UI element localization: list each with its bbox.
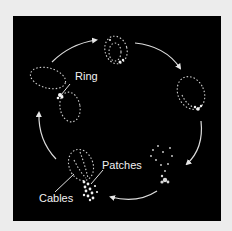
cables-leader-line: [55, 174, 74, 192]
cell-bottom-right: [150, 145, 173, 183]
arrow-top-to-right: [135, 43, 180, 68]
cell-top: [102, 34, 130, 67]
arrow-bottomright-to-bottomleft: [111, 191, 157, 199]
arrow-bottomleft-to-left: [39, 113, 56, 159]
cell-right: [172, 72, 210, 114]
arrow-right-to-bottomright: [187, 121, 201, 164]
label-cables: Cables: [39, 192, 73, 204]
cycle-diagram: [0, 0, 232, 231]
label-ring: Ring: [75, 70, 98, 82]
label-patches: Patches: [102, 159, 142, 171]
arrow-left-to-top: [52, 40, 96, 62]
